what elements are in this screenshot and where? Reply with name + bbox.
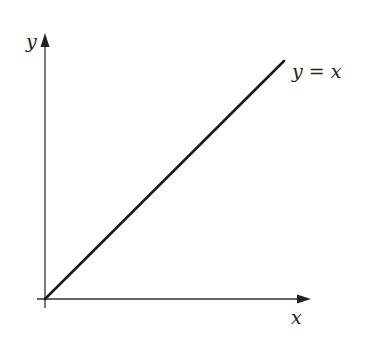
y-axis-label: y [25,30,37,52]
line-label: y = x [291,60,342,82]
line-y-equals-x [45,61,284,299]
y-axis-arrow-icon [41,33,50,47]
x-axis-arrow-icon [297,295,311,304]
graph-canvas: y x y = x [0,0,365,340]
x-axis-label: x [291,306,302,328]
